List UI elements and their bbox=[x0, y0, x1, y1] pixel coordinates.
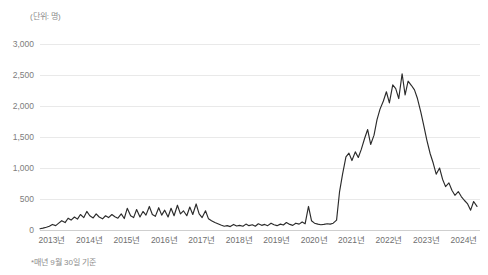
x-axis-tick-label: 2014년 bbox=[76, 235, 103, 245]
y-axis-tick-label: 1,500 bbox=[13, 132, 35, 142]
y-axis-tick-label: 3,000 bbox=[13, 39, 35, 49]
y-axis-tick-label: 1,000 bbox=[13, 163, 35, 173]
x-axis-tick-label: 2015년 bbox=[113, 235, 140, 245]
x-axis-tick-label: 2013년 bbox=[39, 235, 66, 245]
series-line bbox=[40, 74, 477, 229]
y-axis-tick-label: 2,500 bbox=[13, 70, 35, 80]
gridlines-group bbox=[40, 44, 480, 230]
x-axis-tick-label: 2019년 bbox=[263, 235, 290, 245]
x-axis-tick-label: 2024년 bbox=[450, 235, 477, 245]
x-axis-tick-label: 2016년 bbox=[151, 235, 178, 245]
x-axis-tick-label: 2021년 bbox=[338, 235, 365, 245]
y-axis-tick-label: 2,000 bbox=[13, 101, 35, 111]
x-axis-tick-label: 2023년 bbox=[413, 235, 440, 245]
y-axis-tick-label: 500 bbox=[20, 194, 34, 204]
x-axis-tick-label: 2017년 bbox=[188, 235, 215, 245]
y-axis-tick-labels: 05001,0001,5002,0002,5003,000 bbox=[13, 39, 35, 235]
x-axis-tick-label: 2022년 bbox=[376, 235, 403, 245]
x-axis-tick-labels: 2013년2014년2015년2016년2017년2018년2019년2020년… bbox=[39, 235, 478, 245]
x-axis-tick-label: 2018년 bbox=[226, 235, 253, 245]
line-chart-plot: 05001,0001,5002,0002,5003,000 2013년2014년… bbox=[0, 0, 488, 275]
chart-container: (단위: 명) 05001,0001,5002,0002,5003,000 20… bbox=[0, 0, 488, 275]
x-axis-tick-label: 2020년 bbox=[301, 235, 328, 245]
y-axis-tick-label: 0 bbox=[29, 225, 34, 235]
series-group bbox=[40, 74, 477, 229]
footnote-text: *매년 9월 30일 기준 bbox=[31, 256, 96, 267]
